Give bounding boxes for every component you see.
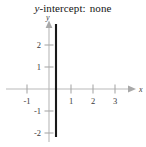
- x-tick-label-2: 2: [91, 96, 95, 106]
- x-tick-label--1: -1: [23, 96, 30, 106]
- x-tick-label-3: 3: [113, 96, 117, 106]
- x-axis-label: x: [138, 85, 143, 94]
- y-tick-label--2: -2: [34, 128, 41, 138]
- caption-text: -intercept:: [39, 2, 85, 14]
- figure-caption: y-intercept:none: [0, 2, 146, 14]
- y-tick-label-2: 2: [37, 40, 41, 50]
- figure-root: y-intercept:none x y -1 1 2 3: [0, 0, 146, 147]
- y-axis-label: y: [45, 16, 50, 22]
- x-axis-arrowhead: [128, 86, 136, 93]
- y-tick-label-1: 1: [37, 62, 41, 72]
- graph-svg: x y -1 1 2 3 2 1 -1 -2: [0, 16, 146, 147]
- y-tick-label--1: -1: [34, 106, 41, 116]
- x-tick-label-1: 1: [69, 96, 73, 106]
- y-axis-arrowhead: [46, 21, 53, 29]
- caption-value: none: [90, 2, 112, 14]
- coordinate-plane: x y -1 1 2 3 2 1 -1 -2: [0, 16, 146, 147]
